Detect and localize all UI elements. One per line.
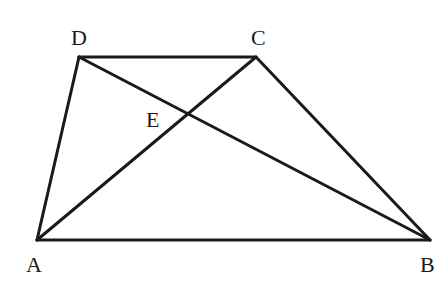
label-a: A — [26, 252, 42, 277]
segment-bc — [256, 57, 430, 240]
label-e: E — [146, 107, 159, 132]
label-d: D — [71, 25, 87, 50]
label-c: C — [251, 25, 266, 50]
segment-da — [37, 57, 79, 240]
geometry-diagram: A B C D E — [0, 0, 448, 284]
diagonal-ac — [37, 57, 256, 240]
diagonal-db — [79, 57, 430, 240]
label-b: B — [420, 252, 435, 277]
segments-group — [37, 57, 430, 240]
